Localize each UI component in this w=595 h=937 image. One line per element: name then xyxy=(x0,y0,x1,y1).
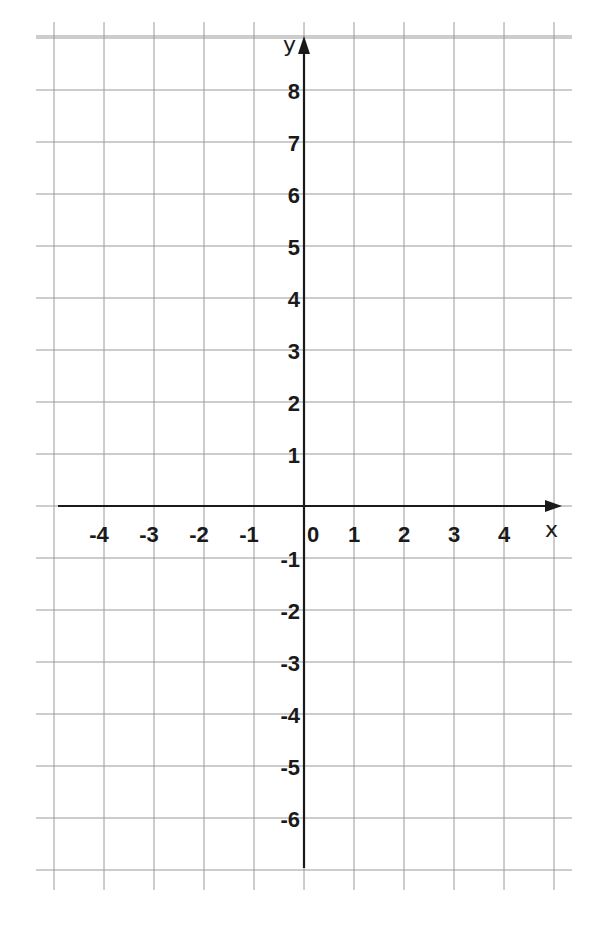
y-tick-label: -3 xyxy=(280,651,300,676)
y-tick-label: -5 xyxy=(280,755,300,780)
y-axis-arrow-icon xyxy=(298,36,310,54)
x-tick-label: -3 xyxy=(139,522,159,547)
x-tick-label: -1 xyxy=(239,522,259,547)
x-tick-label: 0 xyxy=(307,522,319,547)
coordinate-plane: x y -4-3-2-101234 87654321-1-2-3-4-5-6 xyxy=(0,0,595,937)
y-axis-label: y xyxy=(283,32,296,57)
x-tick-label: 3 xyxy=(448,522,460,547)
x-tick-label: 4 xyxy=(498,522,511,547)
x-tick-labels: -4-3-2-101234 xyxy=(89,522,511,547)
y-tick-label: 6 xyxy=(288,183,300,208)
y-tick-label: 3 xyxy=(288,339,300,364)
x-tick-label: 1 xyxy=(348,522,360,547)
y-tick-label: 4 xyxy=(288,287,301,312)
x-axis-label: x xyxy=(545,517,558,542)
x-tick-label: 2 xyxy=(398,522,410,547)
y-tick-label: 1 xyxy=(288,443,300,468)
y-tick-label: 8 xyxy=(288,79,300,104)
y-tick-label: -2 xyxy=(280,599,300,624)
y-tick-label: 5 xyxy=(288,235,300,260)
axes: x y xyxy=(58,32,562,868)
y-tick-label: 7 xyxy=(288,131,300,156)
y-tick-label: -4 xyxy=(280,703,300,728)
y-tick-label: -6 xyxy=(280,807,300,832)
y-tick-label: 2 xyxy=(288,391,300,416)
x-tick-label: -2 xyxy=(189,522,209,547)
y-tick-labels: 87654321-1-2-3-4-5-6 xyxy=(280,79,300,832)
y-tick-label: -1 xyxy=(280,547,300,572)
x-tick-label: -4 xyxy=(89,522,109,547)
